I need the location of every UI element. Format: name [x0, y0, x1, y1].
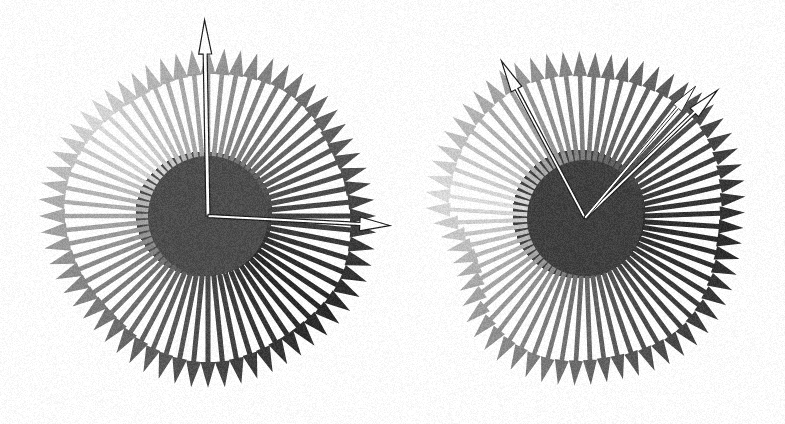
figure-root [0, 0, 785, 424]
radial-arrow-glyph-canvas [0, 0, 785, 424]
